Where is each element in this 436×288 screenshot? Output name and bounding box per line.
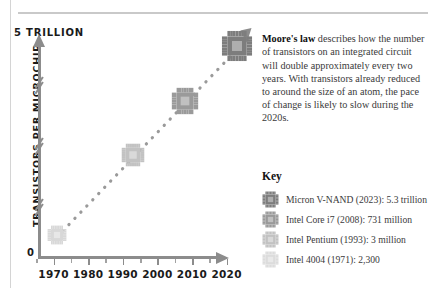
legend-label: Intel 4004 (1971): 2,300 xyxy=(286,254,380,265)
legend-row: Intel Pentium (1993): 3 million xyxy=(262,229,434,249)
transistor-count-chart: 5 TRILLION TRANSISTORS PER MICROCHIP 0 1… xyxy=(0,18,258,288)
article-text-panel: Moore's law describes how the number of … xyxy=(262,22,428,135)
legend-row: Micron V-NAND (2023): 5.3 trillion xyxy=(262,189,434,209)
legend-label: Micron V-NAND (2023): 5.3 trillion xyxy=(286,194,427,205)
microchip-icon xyxy=(262,231,279,248)
microchip-icon xyxy=(47,225,67,249)
legend-label: Intel Core i7 (2008): 731 million xyxy=(286,214,412,225)
microchip-icon xyxy=(221,30,253,66)
chart-legend: Key Micron V-NAND (2023): 5.3 trillion I… xyxy=(262,170,434,269)
article-paragraph: Moore's law describes how the number of … xyxy=(262,32,428,124)
legend-title: Key xyxy=(262,170,434,182)
legend-row: Intel 4004 (1971): 2,300 xyxy=(262,249,434,269)
microchip-icon xyxy=(262,191,279,208)
microchip-icon xyxy=(121,143,145,171)
microchip-icon xyxy=(171,87,199,119)
legend-row: Intel Core i7 (2008): 731 million xyxy=(262,209,434,229)
article-body: describes how the number of transistors … xyxy=(262,33,425,123)
article-lead-in: Moore's law xyxy=(262,33,315,44)
page-top-rule xyxy=(18,12,428,14)
legend-label: Intel Pentium (1993): 3 million xyxy=(286,234,406,245)
microchip-icon xyxy=(262,211,279,228)
microchip-icon xyxy=(262,251,279,268)
